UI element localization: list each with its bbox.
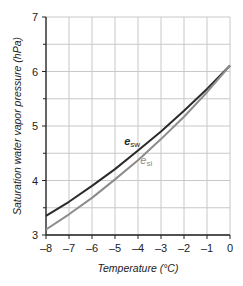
x-tick-label: –5: [109, 242, 121, 254]
label-e_si: esi: [140, 154, 152, 168]
x-tick-label: –6: [86, 242, 98, 254]
vapor-pressure-chart: 34567–8–7–6–5–4–3–2–10 eswesi Temperatur…: [0, 0, 243, 286]
x-tick-label: –3: [155, 242, 167, 254]
axes: 34567–8–7–6–5–4–3–2–10: [32, 11, 233, 254]
y-tick-label: 4: [32, 175, 38, 187]
y-axis-label: Saturation water vapor pressure (hPa): [11, 37, 23, 215]
x-tick-label: –8: [40, 242, 52, 254]
x-axis-label: Temperature (°C): [98, 262, 179, 274]
x-tick-label: –2: [178, 242, 190, 254]
x-tick-label: –1: [201, 242, 213, 254]
x-tick-label: –4: [132, 242, 144, 254]
grid: [46, 17, 230, 235]
y-tick-label: 7: [32, 11, 38, 23]
y-tick-label: 6: [32, 66, 38, 78]
y-tick-label: 3: [32, 229, 38, 241]
x-tick-label: 0: [227, 242, 233, 254]
y-tick-label: 5: [32, 120, 38, 132]
x-tick-label: –7: [63, 242, 75, 254]
